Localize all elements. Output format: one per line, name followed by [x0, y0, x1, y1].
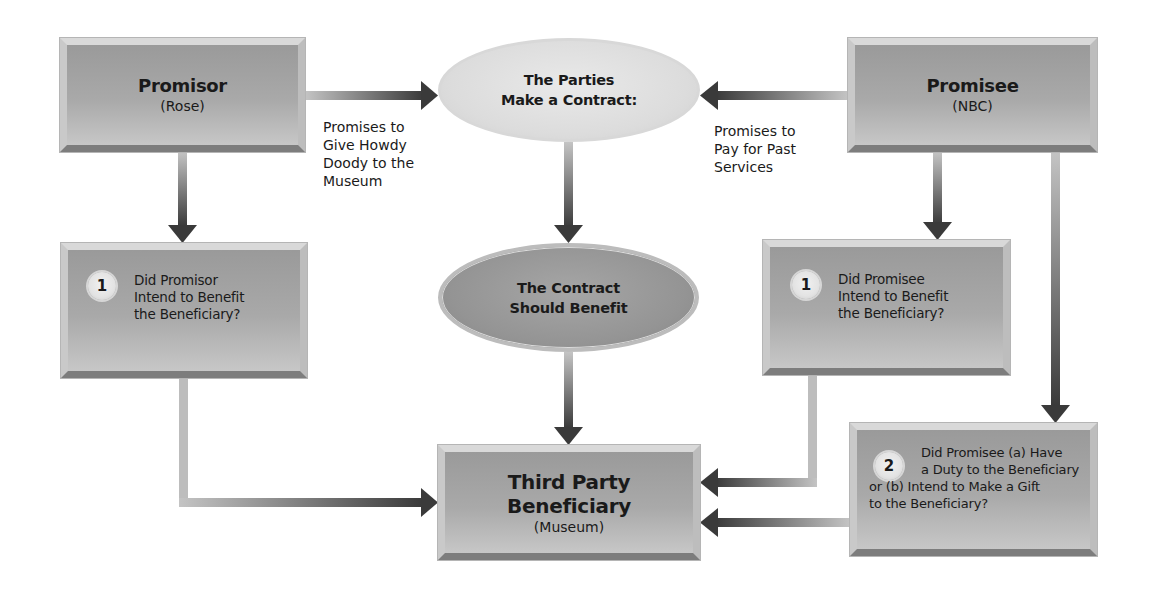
arrow-promisee-to-contract	[700, 81, 848, 110]
label-line: Give Howdy	[323, 136, 414, 154]
step-number-badge: 1	[792, 271, 820, 299]
question-line: to the Beneficiary?	[869, 495, 1079, 512]
question-line: Intend to Benefit	[838, 288, 948, 305]
question-line: or (b) Intend to Make a Gift	[869, 478, 1079, 495]
arrow-promisee-to-question-1	[923, 152, 952, 240]
third-party-beneficiary-diagram: Promisor (Rose) Promisee (NBC) The Parti…	[0, 0, 1153, 594]
beneficiary-subtitle: (Museum)	[534, 518, 604, 536]
contract-ellipse: The Parties Make a Contract:	[438, 38, 700, 142]
promisee-question-1-box: 1 Did Promisee Intend to Benefit the Ben…	[763, 240, 1010, 375]
promisee-title: Promisee	[926, 75, 1018, 97]
third-party-beneficiary-box: Third Party Beneficiary (Museum)	[438, 445, 700, 560]
promisor-promise-label: Promises to Give Howdy Doody to the Muse…	[323, 118, 414, 190]
promisor-question-box: 1 Did Promisor Intend to Benefit the Ben…	[61, 243, 307, 378]
question-line: the Beneficiary?	[838, 305, 948, 322]
question-line: Did Promisee (a) Have	[869, 444, 1079, 461]
arrow-promisor-to-contract	[305, 81, 438, 110]
arrow-contract-to-benefit	[554, 142, 583, 243]
question-line: the Beneficiary?	[134, 306, 244, 323]
promisor-question-text: Did Promisor Intend to Benefit the Benef…	[134, 272, 244, 323]
promisee-question-2-text: Did Promisee (a) Have a Duty to the Bene…	[869, 444, 1079, 512]
question-line: a Duty to the Beneficiary	[869, 461, 1079, 478]
arrow-promisor-to-question	[168, 152, 197, 243]
arrow-promisee-to-question-2	[1041, 152, 1070, 423]
question-line: Did Promisor	[134, 272, 244, 289]
promisor-subtitle: (Rose)	[160, 97, 205, 115]
promisee-box: Promisee (NBC)	[848, 38, 1097, 152]
label-line: Services	[714, 158, 796, 176]
question-line: Intend to Benefit	[134, 289, 244, 306]
contract-ellipse-line1: The Parties	[524, 70, 614, 90]
promisee-question-2-box: 2 Did Promisee (a) Have a Duty to the Be…	[850, 423, 1097, 556]
promisor-box: Promisor (Rose)	[60, 38, 305, 152]
promisee-question-1-text: Did Promisee Intend to Benefit the Benef…	[838, 271, 948, 322]
question-line: Did Promisee	[838, 271, 948, 288]
benefit-ellipse-line1: The Contract	[517, 278, 620, 298]
arrow-benefit-to-beneficiary	[554, 352, 583, 445]
promisor-title: Promisor	[138, 75, 227, 97]
beneficiary-title-line2: Beneficiary	[507, 494, 631, 518]
promisee-subtitle: (NBC)	[952, 97, 993, 115]
label-line: Promises to	[323, 118, 414, 136]
label-line: Doody to the	[323, 154, 414, 172]
label-line: Museum	[323, 172, 414, 190]
arrow-promisee-question-2-to-beneficiary	[700, 508, 850, 537]
promisee-promise-label: Promises to Pay for Past Services	[714, 122, 796, 176]
label-line: Promises to	[714, 122, 796, 140]
benefit-ellipse: The Contract Should Benefit	[438, 243, 699, 352]
benefit-ellipse-line2: Should Benefit	[510, 298, 628, 318]
contract-ellipse-line2: Make a Contract:	[501, 90, 637, 110]
step-number-badge: 1	[88, 272, 116, 300]
arrow-promisor-question-to-beneficiary	[179, 378, 438, 517]
beneficiary-title-line1: Third Party	[508, 470, 631, 494]
arrow-promisee-question-1-to-beneficiary	[700, 375, 817, 497]
label-line: Pay for Past	[714, 140, 796, 158]
